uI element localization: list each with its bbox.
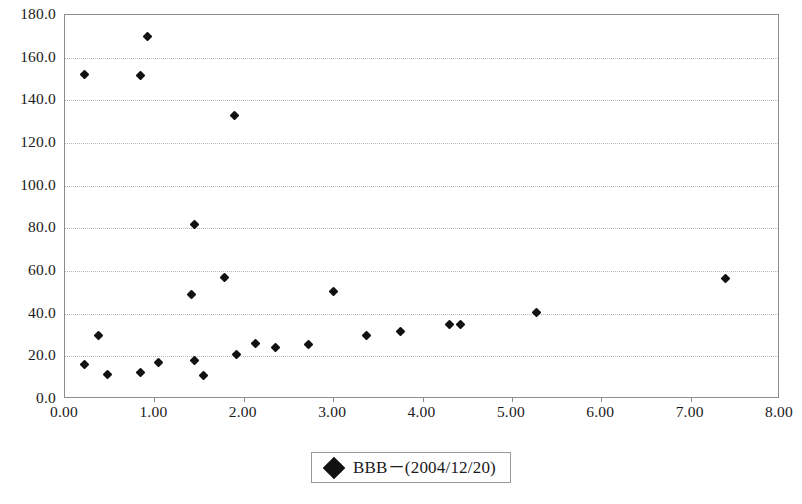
data-point-marker (80, 360, 90, 370)
y-axis-tick-label: 160.0 (0, 49, 56, 65)
data-point-marker (102, 370, 112, 380)
x-axis-tick-label: 2.00 (203, 404, 283, 420)
x-axis-tick (601, 397, 602, 402)
x-axis-tick (423, 397, 424, 402)
data-point-marker (532, 308, 542, 318)
data-point-marker (455, 319, 465, 329)
y-axis-tick-label: 80.0 (0, 219, 56, 235)
gridline (65, 228, 778, 229)
data-point-marker (142, 31, 152, 41)
x-axis-tick (244, 397, 245, 402)
plot-area (64, 14, 779, 398)
y-axis-tick-label: 180.0 (0, 6, 56, 22)
data-point-marker (187, 290, 197, 300)
gridline (65, 186, 778, 187)
data-point-marker (250, 339, 260, 349)
x-axis-tick-label: 1.00 (113, 404, 193, 420)
gridline (65, 58, 778, 59)
scatter-chart-figure: 0.020.040.060.080.0100.0120.0140.0160.01… (0, 0, 802, 504)
legend-label: BBB－(2004/12/20) (353, 459, 496, 476)
gridline (65, 100, 778, 101)
data-point-marker (136, 71, 146, 81)
x-axis-tick (512, 397, 513, 402)
x-axis-tick-label: 4.00 (382, 404, 462, 420)
legend-diamond-icon (323, 456, 346, 479)
data-point-marker (303, 340, 313, 350)
y-axis-tick-label: 60.0 (0, 262, 56, 278)
x-axis-tick-label: 7.00 (650, 404, 730, 420)
y-axis-tick-label: 100.0 (0, 177, 56, 193)
data-point-marker (361, 330, 371, 340)
data-point-marker (270, 343, 280, 353)
data-point-marker (230, 110, 240, 120)
y-axis-tick-label: 20.0 (0, 347, 56, 363)
data-point-marker (199, 371, 209, 381)
x-axis-tick-label: 5.00 (471, 404, 551, 420)
data-point-marker (721, 274, 731, 284)
x-axis-tick (691, 397, 692, 402)
chart-legend: BBB－(2004/12/20) (311, 452, 511, 483)
x-axis-tick-label: 6.00 (560, 404, 640, 420)
x-axis-tick-label: 8.00 (739, 404, 802, 420)
data-point-marker (154, 358, 164, 368)
data-point-marker (232, 349, 242, 359)
data-point-marker (219, 272, 229, 282)
y-axis-tick-label: 120.0 (0, 134, 56, 150)
gridline (65, 356, 778, 357)
gridline (65, 143, 778, 144)
data-point-marker (136, 367, 146, 377)
data-point-marker (395, 327, 405, 337)
data-point-marker (93, 330, 103, 340)
x-axis-tick (154, 397, 155, 402)
x-axis-tick-label: 3.00 (292, 404, 372, 420)
gridline (65, 271, 778, 272)
y-axis-tick-label: 40.0 (0, 305, 56, 321)
x-axis-tick (333, 397, 334, 402)
data-point-marker (444, 319, 454, 329)
y-axis-tick-label: 140.0 (0, 91, 56, 107)
data-point-marker (328, 286, 338, 296)
data-point-marker (80, 70, 90, 80)
x-axis-tick-label: 0.00 (24, 404, 104, 420)
gridline (65, 314, 778, 315)
